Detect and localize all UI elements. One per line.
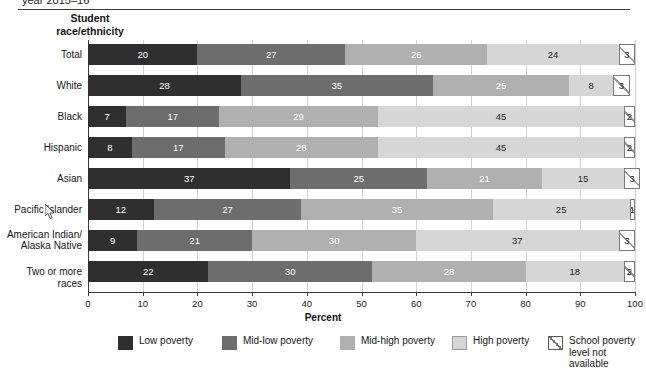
category-axis-header-line: Student bbox=[30, 12, 150, 25]
x-axis-tick bbox=[526, 292, 527, 296]
bar-row: Total202726243 bbox=[88, 44, 635, 65]
bar-segment: 15 bbox=[542, 168, 624, 189]
bar-segment: 12 bbox=[88, 199, 154, 220]
bar-segment: 21 bbox=[427, 168, 542, 189]
bar-row-label: Black bbox=[2, 111, 82, 123]
legend-item-not-available[interactable]: School poverty level not available bbox=[548, 335, 646, 370]
x-axis-tick-label: 30 bbox=[247, 298, 258, 309]
bar-segment: 27 bbox=[197, 44, 345, 65]
bar-segment: 2 bbox=[624, 106, 635, 127]
legend-swatch-icon bbox=[548, 336, 563, 350]
legend-label: Low poverty bbox=[139, 335, 193, 347]
x-axis-tick-label: 50 bbox=[356, 298, 367, 309]
bar-row-label: Asian bbox=[2, 173, 82, 185]
title-divider bbox=[18, 9, 630, 10]
mouse-cursor-icon bbox=[45, 204, 56, 220]
bar-row-label: Two or more races bbox=[2, 266, 82, 289]
x-axis-tick-label: 40 bbox=[302, 298, 313, 309]
x-axis-tick bbox=[143, 292, 144, 296]
grid-line bbox=[635, 40, 636, 292]
x-axis-tick bbox=[580, 292, 581, 296]
x-axis-tick bbox=[471, 292, 472, 296]
bar-segment: 3 bbox=[619, 230, 635, 251]
bar-segment: 22 bbox=[88, 261, 208, 282]
legend-label: High poverty bbox=[473, 335, 529, 347]
bar-segment: 35 bbox=[301, 199, 492, 220]
bar-segment: 17 bbox=[126, 106, 219, 127]
x-axis-tick-label: 100 bbox=[627, 298, 643, 309]
x-axis-tick bbox=[362, 292, 363, 296]
category-axis-header: Studentrace/ethnicity bbox=[30, 12, 150, 37]
bar-segment: 28 bbox=[372, 261, 525, 282]
legend-label: Mid-high poverty bbox=[361, 335, 435, 347]
bar-segment: 25 bbox=[493, 199, 630, 220]
bar-row-label: American Indian/Alaska Native bbox=[2, 229, 82, 251]
bar-row: Black71729452 bbox=[88, 106, 635, 127]
bar-segment: 45 bbox=[378, 137, 624, 158]
bar-row-label: Hispanic bbox=[2, 142, 82, 154]
bar-segment: 25 bbox=[290, 168, 427, 189]
bar-segment: 2 bbox=[624, 137, 635, 158]
bar-segment: 35 bbox=[241, 75, 432, 96]
x-axis-tick-label: 10 bbox=[137, 298, 148, 309]
x-axis-tick bbox=[635, 292, 636, 296]
bar-segment: 26 bbox=[345, 44, 487, 65]
bar-segment: 3 bbox=[613, 75, 629, 96]
chart-plot-area: Total202726243White28352583Black71729452… bbox=[88, 40, 635, 292]
legend-swatch-icon bbox=[118, 336, 133, 350]
bar-segment: 27 bbox=[154, 199, 302, 220]
x-axis-tick bbox=[88, 292, 89, 296]
legend-label: Mid-low poverty bbox=[243, 335, 313, 347]
bar-segment: 45 bbox=[378, 106, 624, 127]
x-axis-tick-label: 60 bbox=[411, 298, 422, 309]
bar-segment: 37 bbox=[88, 168, 290, 189]
bar-segment: 8 bbox=[88, 137, 132, 158]
x-axis-tick-label: 80 bbox=[520, 298, 531, 309]
bar-row: Pacific Islander122735251 bbox=[88, 199, 635, 220]
bar-segment: 20 bbox=[88, 44, 197, 65]
bar-segment: 3 bbox=[619, 44, 635, 65]
bar-segment: 24 bbox=[487, 44, 618, 65]
bar-row: White28352583 bbox=[88, 75, 635, 96]
bar-row: Hispanic81728452 bbox=[88, 137, 635, 158]
bar-segment: 28 bbox=[88, 75, 241, 96]
chart-legend: Low povertyMid-low povertyMid-high pover… bbox=[0, 335, 646, 365]
bar-segment: 18 bbox=[526, 261, 624, 282]
x-axis-label: Percent bbox=[0, 312, 646, 323]
bar-segment: 21 bbox=[137, 230, 252, 251]
legend-swatch-icon bbox=[340, 336, 355, 350]
bar-segment: 28 bbox=[225, 137, 378, 158]
bar-row-label: Total bbox=[2, 49, 82, 61]
bar-segment: 29 bbox=[219, 106, 378, 127]
category-axis-header-line: race/ethnicity bbox=[30, 25, 150, 38]
bar-row: Two or more races223028182 bbox=[88, 261, 635, 282]
bar-segment: 1 bbox=[630, 199, 635, 220]
x-axis-tick-label: 70 bbox=[466, 298, 477, 309]
x-axis-tick-label: 0 bbox=[85, 298, 90, 309]
bar-segment: 25 bbox=[433, 75, 570, 96]
bar-row-label: Pacific Islander bbox=[2, 204, 82, 216]
bar-segment: 30 bbox=[208, 261, 372, 282]
legend-swatch-icon bbox=[222, 336, 237, 350]
legend-item-mid-low-poverty[interactable]: Mid-low poverty bbox=[222, 335, 313, 350]
x-axis-tick-label: 20 bbox=[192, 298, 203, 309]
x-axis-tick-label: 90 bbox=[575, 298, 586, 309]
legend-swatch-icon bbox=[452, 336, 467, 350]
legend-item-low-poverty[interactable]: Low poverty bbox=[118, 335, 193, 350]
bar-row: American Indian/Alaska Native92130373 bbox=[88, 230, 635, 251]
bar-segment: 8 bbox=[569, 75, 613, 96]
legend-item-mid-high-poverty[interactable]: Mid-high poverty bbox=[340, 335, 435, 350]
x-axis-tick bbox=[252, 292, 253, 296]
bar-segment: 7 bbox=[88, 106, 126, 127]
bar-segment: 30 bbox=[252, 230, 416, 251]
legend-item-high-poverty[interactable]: High poverty bbox=[452, 335, 529, 350]
x-axis-tick bbox=[197, 292, 198, 296]
x-axis-tick bbox=[416, 292, 417, 296]
bar-segment: 37 bbox=[416, 230, 618, 251]
bar-row-label: White bbox=[2, 80, 82, 92]
legend-label: School poverty level not available bbox=[569, 335, 646, 370]
chart-title: year 2015–16 bbox=[22, 0, 89, 6]
bar-segment: 17 bbox=[132, 137, 225, 158]
x-axis-tick bbox=[307, 292, 308, 296]
bar-row: Asian372521153 bbox=[88, 168, 635, 189]
